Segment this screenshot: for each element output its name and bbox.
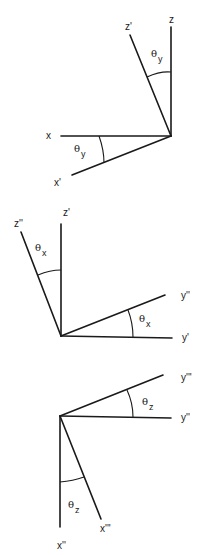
svg-text:x: x	[42, 248, 47, 258]
x-triple-prime-axis	[60, 416, 101, 519]
y-prime-axis	[61, 336, 172, 338]
theta-z-arc-right	[127, 390, 133, 417]
theta-z-arc-bottom	[60, 477, 84, 482]
svg-text:θ: θ	[151, 48, 157, 59]
theta-y-label-top: θ y	[151, 48, 163, 64]
svg-text:θ: θ	[35, 242, 41, 253]
rotation-diagram: z z' x x' θ y θ y z' z'' y' y'' θ x θ x	[0, 0, 202, 555]
label-z-prime: z'	[125, 21, 132, 32]
theta-z-label-right: θ z	[142, 396, 154, 412]
svg-text:θ: θ	[74, 143, 80, 154]
label-z-double-prime: z''	[14, 218, 23, 229]
label-x-double-prime: x''	[57, 540, 66, 551]
svg-text:x: x	[146, 319, 151, 329]
theta-y-arc-bottom	[99, 136, 104, 163]
theta-x-arc-right	[128, 310, 133, 337]
svg-text:z: z	[149, 402, 154, 412]
theta-x-arc-top	[38, 270, 61, 275]
label-x-prime: x'	[54, 177, 61, 188]
label-x: x	[46, 130, 51, 141]
svg-text:y: y	[81, 149, 86, 159]
label-z-prime: z'	[63, 207, 70, 218]
label-y-double-prime: y''	[181, 290, 190, 301]
label-y-double-prime: y''	[181, 412, 190, 423]
svg-text:z: z	[75, 505, 80, 515]
theta-y-label-bottom: θ y	[74, 143, 86, 159]
label-z: z	[169, 14, 174, 25]
label-y-triple-prime: y'''	[181, 372, 192, 383]
svg-text:θ: θ	[142, 396, 148, 407]
label-x-triple-prime: x'''	[100, 523, 111, 534]
theta-x-label-right: θ x	[139, 313, 151, 329]
theta-x-label-top: θ x	[35, 242, 47, 258]
x-prime-axis	[72, 136, 171, 175]
svg-text:θ: θ	[139, 313, 145, 324]
y-double-prime-axis	[60, 416, 171, 418]
svg-text:y: y	[158, 54, 163, 64]
y-double-prime-axis	[61, 295, 165, 336]
theta-y-arc-top	[147, 72, 171, 77]
theta-z-label-bottom: θ z	[68, 499, 80, 515]
svg-text:θ: θ	[68, 499, 74, 510]
label-y-prime: y'	[182, 332, 189, 343]
panel-rotation-z: y''' y'' x'' x''' θ z θ z	[57, 372, 192, 551]
panel-rotation-y: z z' x x' θ y θ y	[46, 14, 174, 188]
panel-rotation-x: z' z'' y' y'' θ x θ x	[14, 207, 190, 343]
